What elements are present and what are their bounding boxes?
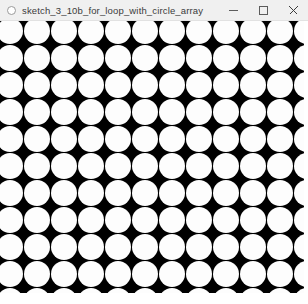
circle-cell xyxy=(159,126,185,152)
minimize-button[interactable] xyxy=(218,0,248,20)
circle-cell xyxy=(51,21,77,44)
circle-cell xyxy=(105,234,131,260)
circle-cell xyxy=(186,99,212,125)
circle-cell xyxy=(0,180,23,206)
sketch-window: sketch_3_10b_for_loop_with_circle_array xyxy=(0,0,308,304)
circle-cell xyxy=(159,234,185,260)
circle-cell xyxy=(105,207,131,233)
circle-cell xyxy=(0,21,23,44)
circle-cell xyxy=(294,126,304,152)
circle-cell xyxy=(0,234,23,260)
circle-cell xyxy=(159,21,185,44)
circle-cell xyxy=(213,45,239,71)
circle-cell xyxy=(159,99,185,125)
circle-cell xyxy=(78,72,104,98)
circle-cell xyxy=(51,126,77,152)
circle-cell xyxy=(213,153,239,179)
circle-cell xyxy=(51,234,77,260)
circle-cell xyxy=(240,45,266,71)
circle-cell xyxy=(105,45,131,71)
circle-cell xyxy=(78,153,104,179)
circle-cell xyxy=(159,72,185,98)
circle-cell xyxy=(24,180,50,206)
circle-cell xyxy=(240,207,266,233)
circle-cell xyxy=(0,153,23,179)
circle-cell xyxy=(0,99,23,125)
circle-cell xyxy=(294,261,304,287)
circle-cell xyxy=(132,261,158,287)
minimize-icon xyxy=(228,5,239,16)
circle-cell xyxy=(24,261,50,287)
circle-cell xyxy=(159,261,185,287)
close-button[interactable] xyxy=(278,0,308,20)
circle-cell xyxy=(186,207,212,233)
circle-cell xyxy=(78,21,104,44)
circle-cell xyxy=(159,45,185,71)
window-right-margin xyxy=(304,21,308,304)
circle-cell xyxy=(186,21,212,44)
circle-cell xyxy=(159,153,185,179)
circle-cell xyxy=(213,99,239,125)
circle-cell xyxy=(0,207,23,233)
circle-cell xyxy=(240,234,266,260)
window-controls xyxy=(218,0,308,20)
circle-cell xyxy=(240,99,266,125)
circle-cell xyxy=(267,207,293,233)
window-titlebar[interactable]: sketch_3_10b_for_loop_with_circle_array xyxy=(0,0,308,21)
circle-cell xyxy=(132,99,158,125)
sketch-canvas[interactable] xyxy=(0,21,304,293)
maximize-icon xyxy=(258,5,269,16)
circle-cell xyxy=(24,126,50,152)
circle-cell xyxy=(24,207,50,233)
maximize-button[interactable] xyxy=(248,0,278,20)
circle-cell xyxy=(213,234,239,260)
circle-cell xyxy=(24,153,50,179)
circle-cell xyxy=(240,153,266,179)
circle-cell xyxy=(267,21,293,44)
circle-cell xyxy=(51,99,77,125)
circle-cell xyxy=(24,45,50,71)
circle-cell xyxy=(105,72,131,98)
circle-cell xyxy=(51,45,77,71)
circle-cell xyxy=(0,126,23,152)
circle-cell xyxy=(213,126,239,152)
circle-cell xyxy=(51,180,77,206)
circle-cell xyxy=(294,207,304,233)
circle-cell xyxy=(186,180,212,206)
circle-cell xyxy=(24,99,50,125)
circle-cell xyxy=(105,153,131,179)
circle-cell xyxy=(186,234,212,260)
window-title: sketch_3_10b_for_loop_with_circle_array xyxy=(22,0,218,21)
circle-cell xyxy=(294,72,304,98)
circle-array xyxy=(0,21,304,293)
circle-cell xyxy=(132,180,158,206)
circle-cell xyxy=(78,45,104,71)
circle-cell xyxy=(78,234,104,260)
circle-cell xyxy=(294,180,304,206)
circle-cell xyxy=(105,126,131,152)
circle-cell xyxy=(267,99,293,125)
circle-cell xyxy=(213,207,239,233)
circle-cell xyxy=(132,234,158,260)
close-icon xyxy=(288,5,299,16)
circle-cell xyxy=(105,21,131,44)
circle-cell xyxy=(132,21,158,44)
circle-cell xyxy=(78,261,104,287)
circle-cell xyxy=(132,153,158,179)
circle-cell xyxy=(24,72,50,98)
circle-cell xyxy=(51,207,77,233)
circle-cell xyxy=(213,261,239,287)
circle-cell xyxy=(78,180,104,206)
circle-cell xyxy=(186,45,212,71)
circle-cell xyxy=(105,180,131,206)
circle-cell xyxy=(51,261,77,287)
circle-cell xyxy=(24,234,50,260)
circle-cell xyxy=(78,126,104,152)
circle-cell xyxy=(294,153,304,179)
circle-cell xyxy=(267,153,293,179)
circle-cell xyxy=(213,180,239,206)
circle-cell xyxy=(78,207,104,233)
circle-cell xyxy=(267,126,293,152)
circle-cell xyxy=(267,72,293,98)
processing-app-icon xyxy=(5,4,18,17)
